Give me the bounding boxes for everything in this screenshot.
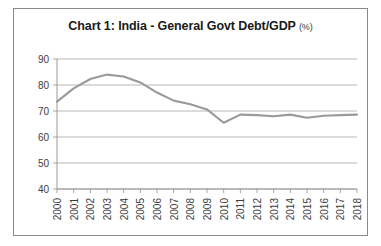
x-tick-label: 2010 bbox=[219, 198, 230, 221]
x-tick-label: 2002 bbox=[85, 198, 96, 221]
x-axis-labels-group: 2000200120022003200420052006200720082009… bbox=[52, 198, 363, 221]
x-tick-label: 2003 bbox=[102, 198, 113, 221]
y-tick-label: 50 bbox=[38, 158, 50, 169]
x-tick-label: 2001 bbox=[69, 198, 80, 221]
x-tick-label: 2016 bbox=[319, 198, 330, 221]
y-tick-label: 60 bbox=[38, 132, 50, 143]
y-tick-label: 80 bbox=[38, 80, 50, 91]
x-tick-label: 2015 bbox=[302, 198, 313, 221]
x-tick-label: 2014 bbox=[285, 198, 296, 221]
x-axis-ticks-group bbox=[57, 189, 357, 193]
x-tick-label: 2004 bbox=[119, 198, 130, 221]
chart-card: Chart 1: India - General Govt Debt/GDP (… bbox=[13, 8, 368, 236]
x-tick-label: 2006 bbox=[152, 198, 163, 221]
y-tick-label: 40 bbox=[38, 184, 50, 195]
x-tick-label: 2005 bbox=[135, 198, 146, 221]
y-tick-label: 90 bbox=[38, 54, 50, 65]
x-tick-label: 2000 bbox=[52, 198, 63, 221]
x-tick-label: 2009 bbox=[202, 198, 213, 221]
x-tick-label: 2008 bbox=[185, 198, 196, 221]
x-tick-label: 2011 bbox=[235, 198, 246, 220]
x-tick-label: 2013 bbox=[269, 198, 280, 221]
x-tick-label: 2018 bbox=[352, 198, 363, 221]
plot-area: 405060708090 200020012002200320042005200… bbox=[14, 9, 369, 237]
x-tick-label: 2012 bbox=[252, 198, 263, 221]
data-series-line bbox=[57, 75, 357, 123]
gridlines-group bbox=[57, 59, 357, 189]
x-tick-label: 2007 bbox=[169, 198, 180, 221]
line-chart-svg: 405060708090 200020012002200320042005200… bbox=[14, 9, 369, 237]
x-tick-label: 2017 bbox=[335, 198, 346, 221]
y-axis-ticks-group: 405060708090 bbox=[38, 54, 57, 195]
y-tick-label: 70 bbox=[38, 106, 50, 117]
